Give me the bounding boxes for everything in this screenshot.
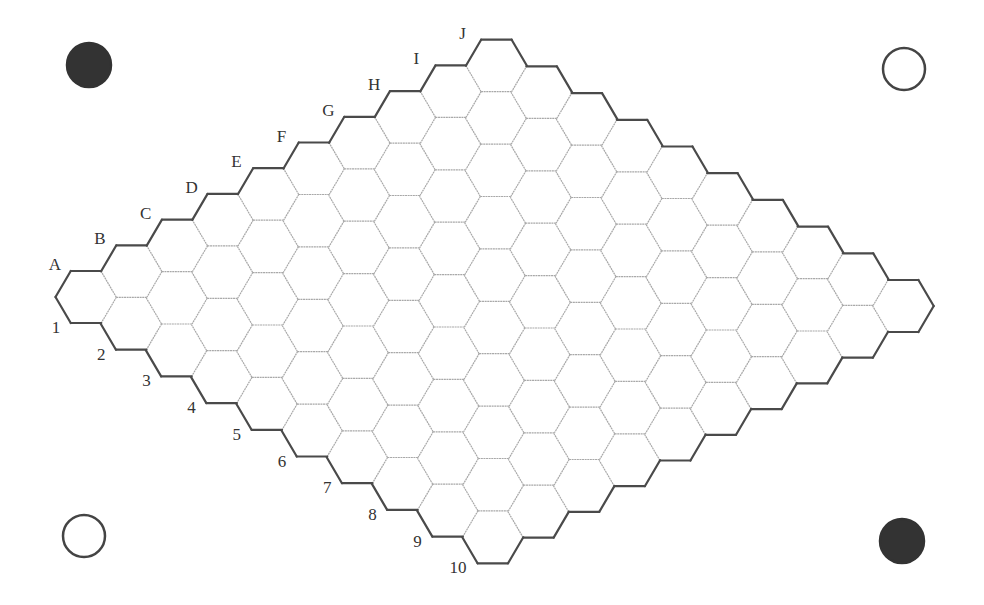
row-label-6: 6	[278, 452, 287, 471]
hex-board: ABCDEFGHIJ12345678910	[0, 0, 984, 605]
top-right-white-stone-icon	[883, 48, 925, 90]
column-label-A: A	[49, 255, 62, 274]
board-cells	[56, 40, 934, 564]
top-left-black-stone-icon	[67, 43, 111, 87]
row-label-5: 5	[233, 425, 242, 444]
column-label-F: F	[277, 127, 286, 146]
row-label-10: 10	[450, 558, 467, 577]
bottom-left-white-stone-icon	[63, 515, 105, 557]
column-label-J: J	[459, 24, 466, 43]
row-label-3: 3	[142, 371, 151, 390]
row-label-4: 4	[187, 398, 196, 417]
row-label-2: 2	[97, 345, 106, 364]
column-label-B: B	[94, 229, 105, 248]
column-label-H: H	[368, 75, 380, 94]
row-label-8: 8	[368, 505, 377, 524]
row-label-1: 1	[52, 318, 61, 337]
row-label-7: 7	[323, 478, 332, 497]
column-label-C: C	[140, 204, 151, 223]
column-label-E: E	[231, 152, 241, 171]
row-label-9: 9	[413, 532, 422, 551]
column-label-I: I	[414, 49, 420, 68]
bottom-right-black-stone-icon	[880, 519, 924, 563]
column-label-D: D	[186, 178, 198, 197]
column-label-G: G	[322, 101, 334, 120]
